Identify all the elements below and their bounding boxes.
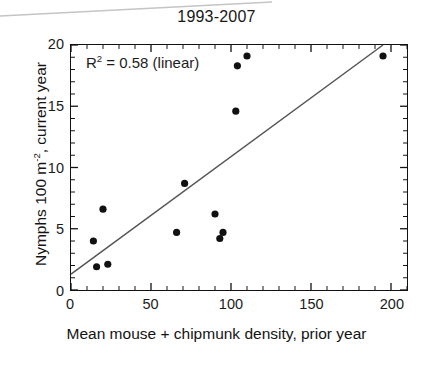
y-axis-title-main: Nymphs 100 m <box>32 162 49 266</box>
trendline <box>71 45 383 274</box>
x-tick-label: 200 <box>366 296 418 312</box>
data-point <box>181 180 188 187</box>
axis-ticks <box>71 45 407 290</box>
data-point <box>379 52 386 59</box>
x-axis-tick-labels: 050100150200 <box>0 296 433 318</box>
data-point <box>173 229 180 236</box>
data-points <box>90 52 387 270</box>
x-tick-label: 100 <box>205 296 257 312</box>
data-point <box>93 263 100 270</box>
plot-canvas <box>71 45 407 290</box>
r-squared-prefix: R <box>86 54 97 71</box>
y-axis-title-tail: , current year <box>32 62 49 153</box>
data-point <box>99 206 106 213</box>
plot-area <box>70 44 408 291</box>
data-point <box>90 237 97 244</box>
x-tick-label: 150 <box>285 296 337 312</box>
data-point <box>243 52 250 59</box>
y-axis-title: Nymphs 100 m-2, current year <box>32 19 50 309</box>
x-axis-title: Mean mouse + chipmunk density, prior yea… <box>0 325 433 343</box>
r-squared-annotation: R2 = 0.58 (linear) <box>86 54 199 71</box>
r-squared-rest: = 0.58 (linear) <box>102 54 199 71</box>
data-point <box>216 235 223 242</box>
figure-container: 1993-2007 R2 = 0.58 (linear) 05101520 05… <box>0 0 433 365</box>
x-tick-label: 0 <box>44 296 96 312</box>
x-tick-label: 50 <box>124 296 176 312</box>
data-point <box>234 62 241 69</box>
y-axis-title-exponent: -2 <box>31 153 42 161</box>
data-point <box>219 229 226 236</box>
data-point <box>232 108 239 115</box>
data-point <box>211 210 218 217</box>
chart-title: 1993-2007 <box>0 8 433 26</box>
data-point <box>104 261 111 268</box>
